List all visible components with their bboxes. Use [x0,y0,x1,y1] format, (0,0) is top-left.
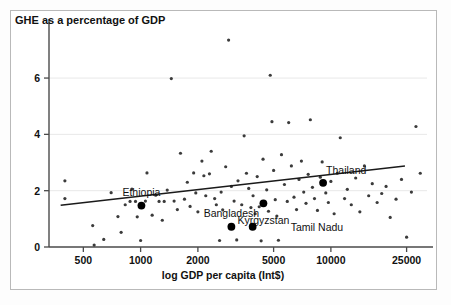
data-point [405,236,408,239]
data-point [188,205,191,208]
scatter-plot[interactable]: 0246 5001000200050001000025000 EthiopiaB… [11,11,436,289]
data-point [136,215,139,218]
data-point [333,212,336,215]
data-point [251,194,254,197]
highlighted-points: EthiopiaBangladeshKyrgyzstanTamil NaduTh… [122,164,366,233]
x-tick-label: 2000 [186,254,210,266]
data-point [339,136,342,139]
data-point [274,198,277,201]
highlighted-point-kyrgyzstan[interactable] [260,199,268,207]
y-axis-label: GHE as a percentage of GDP [15,14,165,26]
data-point [380,192,383,195]
data-point [166,189,169,192]
x-tick-label: 10000 [316,254,345,266]
data-point [300,160,303,163]
data-point [358,210,361,213]
x-tick-label: 5000 [262,254,286,266]
data-point [170,77,173,80]
data-point [186,181,189,184]
x-axis-label: log GDP per capita (Int$) [162,269,284,281]
data-point [287,121,290,124]
data-point [151,214,154,217]
data-point [63,179,66,182]
data-point [196,210,199,213]
point-label-tamil-nadu: Tamil Nadu [291,221,344,233]
data-point [134,200,137,203]
data-point [145,171,148,174]
x-tick-label: 25000 [392,254,421,266]
data-point [144,200,147,203]
data-point [321,160,324,163]
data-point [376,201,379,204]
highlighted-point-bangladesh[interactable] [227,223,235,231]
data-point [267,210,270,213]
data-point [292,196,295,199]
data-point [400,178,403,181]
data-point [329,180,332,183]
data-point [110,191,113,194]
data-point [220,190,223,193]
x-tick-label: 500 [75,254,93,266]
data-point [394,198,397,201]
data-point [245,172,248,175]
data-point [91,224,94,227]
data-point [213,197,216,200]
data-point [124,203,127,206]
data-point [309,118,312,121]
data-point [384,185,387,188]
data-point [307,173,310,176]
data-point [120,231,123,234]
data-point [157,200,160,203]
data-point [218,239,221,242]
y-tick-label: 2 [34,185,40,197]
highlighted-point-thailand[interactable] [319,179,327,187]
data-point [183,198,186,201]
data-point [290,164,293,167]
data-point [93,243,96,246]
data-point [283,183,286,186]
data-point [324,191,327,194]
data-point [161,219,164,222]
highlighted-point-tamil-nadu[interactable] [249,223,257,231]
data-point [295,208,298,211]
data-point [208,172,211,175]
data-point [261,158,264,161]
data-point [354,176,357,179]
x-tick-label: 1000 [129,254,153,266]
data-point [270,120,273,123]
y-tick-label: 4 [34,128,40,140]
data-point [227,38,230,41]
grid-lines [49,78,427,191]
data-point [139,239,142,242]
y-axis-ticks: 0246 [34,72,49,253]
data-point [272,169,275,172]
data-point [192,171,195,174]
data-point [286,200,289,203]
data-point [410,190,413,193]
y-tick-label: 6 [34,72,40,84]
data-point [247,187,250,190]
data-point [179,152,182,155]
point-label-ethiopia: Ethiopia [122,186,160,198]
data-point [200,160,203,163]
data-point [194,191,197,194]
data-point [280,153,283,156]
y-tick-label: 0 [34,241,40,253]
data-point [210,150,213,153]
data-point [311,186,314,189]
data-point [235,238,238,241]
highlighted-point-ethiopia[interactable] [138,202,146,210]
data-point [343,197,346,200]
data-point [367,194,370,197]
data-point [204,194,207,197]
data-point [233,200,236,203]
data-point [256,175,259,178]
data-point [236,179,239,182]
data-point [419,172,422,175]
data-point [116,215,119,218]
data-point [176,208,179,211]
data-point [128,200,131,203]
data-point [102,238,105,241]
data-point [350,203,353,206]
data-point [265,188,268,191]
